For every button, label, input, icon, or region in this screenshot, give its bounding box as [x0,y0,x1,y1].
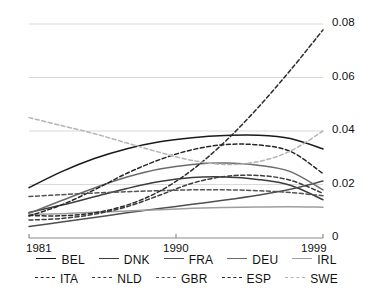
y-tick-label-0.04: 0.04 [332,123,355,135]
legend-label-gbr: GBR [181,272,208,286]
legend-label-bel: BEL [61,253,84,267]
series-line-swe [29,118,323,165]
legend-row-1: BELDNKFRADEUIRL [0,250,373,269]
legend-label-irl: IRL [317,253,336,267]
series-line-ita [29,144,323,216]
legend-label-swe: SWE [310,272,338,286]
y-tick-label-0.08: 0.08 [332,16,355,28]
gridlines [29,24,323,185]
legend-item-nld[interactable]: NLD [92,272,142,286]
legend-swatch-irl-icon [292,258,312,259]
legend-label-deu: DEU [252,253,278,267]
legend-swatch-bel-icon [36,258,56,259]
legend-label-esp: ESP [247,272,272,286]
legend-swatch-nld-icon [92,277,112,278]
y-tick-label-0.02: 0.02 [332,177,355,189]
series-line-irl [29,207,323,215]
legend-swatch-swe-icon [285,277,305,278]
legend-item-bel[interactable]: BEL [36,253,84,267]
series-line-fra [29,181,323,226]
legend-item-dnk[interactable]: DNK [99,253,150,267]
legend-item-deu[interactable]: DEU [227,253,278,267]
axes [29,234,323,238]
legend-item-gbr[interactable]: GBR [156,272,208,286]
legend-item-fra[interactable]: FRA [164,253,214,267]
legend-label-nld: NLD [117,272,142,286]
legend-item-esp[interactable]: ESP [222,272,272,286]
legend-item-swe[interactable]: SWE [285,272,338,286]
legend-swatch-fra-icon [164,258,184,259]
y-tick-label-0: 0 [332,230,339,242]
legend-swatch-deu-icon [227,258,247,259]
legend-swatch-gbr-icon [156,277,176,278]
legend-swatch-ita-icon [35,277,55,278]
line-chart: 00.020.040.060.08 198119901999 BELDNKFRA… [0,0,373,295]
legend-label-fra: FRA [189,253,214,267]
y-tick-label-0.06: 0.06 [332,70,355,82]
legend-swatch-esp-icon [222,277,242,278]
legend-item-ita[interactable]: ITA [35,272,78,286]
chart-legend: BELDNKFRADEUIRLITANLDGBRESPSWE [0,250,373,288]
legend-row-2: ITANLDGBRESPSWE [0,269,373,288]
legend-item-irl[interactable]: IRL [292,253,336,267]
legend-label-ita: ITA [60,272,78,286]
legend-swatch-dnk-icon [99,258,119,259]
legend-label-dnk: DNK [124,253,150,267]
series-line-esp [29,30,323,216]
series-lines [29,30,323,227]
